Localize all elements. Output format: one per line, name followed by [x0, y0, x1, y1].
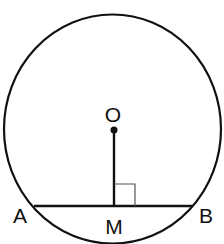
label-o: O: [105, 103, 121, 126]
label-m: M: [105, 215, 123, 238]
right-angle-marker: [114, 184, 135, 206]
center-point-o: [111, 127, 118, 134]
circle-diagram: O A M B: [0, 0, 224, 244]
label-b: B: [199, 204, 213, 227]
label-a: A: [13, 204, 27, 227]
